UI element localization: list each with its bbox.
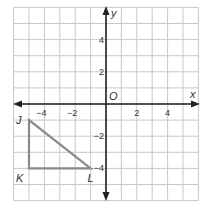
x-tick-label: 4 — [165, 108, 170, 118]
x-tick-label: −2 — [67, 108, 77, 118]
vertex-label-j: J — [15, 114, 22, 126]
coordinate-plane: x y O −4−22442−2−4 JKL — [0, 0, 207, 212]
y-tick-label: 4 — [99, 35, 104, 45]
x-axis-label: x — [189, 88, 196, 100]
y-tick-label: −2 — [94, 131, 104, 141]
origin-label: O — [109, 90, 118, 102]
x-axis-left-arrow-icon — [13, 101, 22, 108]
y-axis-label: y — [110, 7, 118, 19]
vertex-label-l: L — [88, 172, 94, 184]
y-tick-label: −4 — [94, 163, 104, 173]
vertex-labels: JKL — [15, 114, 94, 184]
y-axis-down-arrow-icon — [103, 192, 110, 201]
x-tick-label: 2 — [134, 108, 139, 118]
y-tick-label: 2 — [99, 67, 104, 77]
axes — [13, 6, 200, 201]
vertex-label-k: K — [16, 172, 24, 184]
x-tick-label: −4 — [36, 108, 46, 118]
